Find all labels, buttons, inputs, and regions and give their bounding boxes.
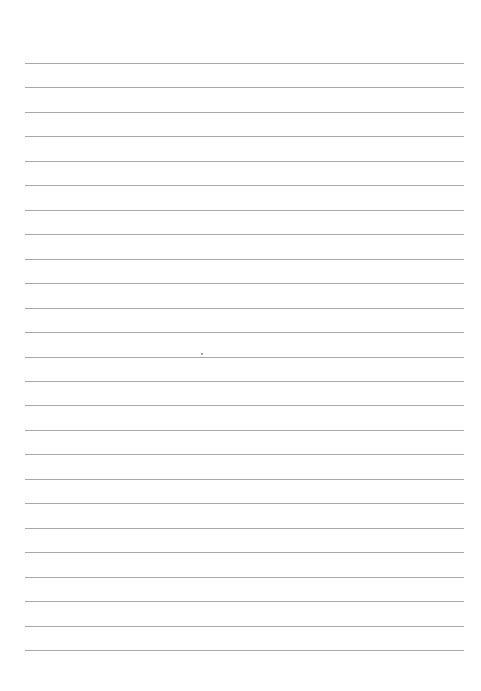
- ruled-line: [25, 454, 464, 455]
- ruled-line: [25, 601, 464, 602]
- ruled-line: [25, 63, 464, 64]
- ruled-line: [25, 626, 464, 627]
- ruled-line: [25, 430, 464, 431]
- paper-speck: [201, 353, 203, 355]
- ruled-line: [25, 381, 464, 382]
- ruled-line: [25, 234, 464, 235]
- ruled-line: [25, 210, 464, 211]
- ruled-line: [25, 283, 464, 284]
- ruled-line: [25, 357, 464, 358]
- ruled-line: [25, 259, 464, 260]
- ruled-line: [25, 161, 464, 162]
- ruled-line: [25, 503, 464, 504]
- ruled-line: [25, 528, 464, 529]
- ruled-line: [25, 479, 464, 480]
- ruled-line: [25, 185, 464, 186]
- ruled-line: [25, 308, 464, 309]
- ruled-line: [25, 332, 464, 333]
- ruled-line: [25, 552, 464, 553]
- ruled-line: [25, 405, 464, 406]
- ruled-line: [25, 87, 464, 88]
- lined-paper-page: [0, 0, 481, 691]
- ruled-line: [25, 650, 464, 651]
- ruled-line: [25, 112, 464, 113]
- ruled-line: [25, 577, 464, 578]
- ruled-line: [25, 136, 464, 137]
